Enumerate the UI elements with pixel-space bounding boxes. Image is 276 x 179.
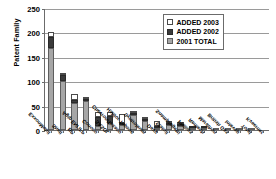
bar-segment-2001-total	[60, 81, 66, 130]
legend-entry[interactable]: 2001 TOTAL	[167, 37, 219, 47]
bar-slot	[257, 9, 269, 130]
legend-entry[interactable]: ADDED 2002	[167, 27, 219, 37]
black-square-icon	[167, 29, 173, 35]
x-label-slot: Marathon	[210, 131, 222, 179]
y-tick-label: 250	[27, 5, 40, 14]
x-label-slot: Rentech	[198, 131, 210, 179]
x-label-slot: Agip ENI IFP	[80, 131, 92, 179]
x-label-slot: Phillips	[186, 131, 198, 179]
bar-slot	[234, 9, 246, 130]
bar-slot	[45, 9, 57, 130]
x-label-slot: Syntroleum	[139, 131, 151, 179]
chart-legend: ADDED 2003ADDED 20022001 TOTAL	[163, 14, 224, 50]
x-axis-labels: ExxonMobilShellBPAgip ENI IFPConocoSASOL…	[44, 131, 269, 179]
bar-stack[interactable]	[48, 32, 54, 130]
legend-entry-label: ADDED 2002	[177, 28, 219, 35]
bar-segment-added-2002	[48, 37, 54, 48]
x-label-slot: Shell	[56, 131, 68, 179]
y-tick-label: 150	[27, 53, 40, 62]
x-label-slot: SASOL	[103, 131, 115, 179]
gray-square-icon	[167, 38, 173, 44]
x-label-slot: Chevron/Texaco	[115, 131, 127, 179]
legend-entry-label: ADDED 2003	[177, 19, 219, 26]
x-label-slot: Intevep	[234, 131, 246, 179]
x-label-slot: Kvaerner	[257, 131, 269, 179]
y-tick-label: 100	[27, 78, 40, 87]
y-tick-label: 50	[32, 102, 40, 111]
legend-entry[interactable]: ADDED 2003	[167, 18, 219, 28]
bar-slot	[246, 9, 258, 130]
x-label-slot: Haldor Topsoe	[127, 131, 139, 179]
bar-segment-2001-total	[48, 48, 54, 130]
x-label-slot: ExxonMobil	[44, 131, 56, 179]
x-label-slot: Davy	[151, 131, 163, 179]
legend-entry-label: 2001 TOTAL	[177, 38, 217, 45]
x-label-slot: Conoco	[91, 131, 103, 179]
y-axis-title: Patent Family	[12, 5, 21, 81]
y-tick-label: 200	[27, 29, 40, 38]
bar-slot	[69, 9, 81, 130]
patent-family-bar-chart: Patent Family 050100150200250 ExxonMobil…	[0, 0, 276, 179]
x-label-slot: Total	[245, 131, 257, 179]
x-label-slot: Statoil	[162, 131, 174, 179]
bar-slot	[128, 9, 140, 130]
white-square-icon	[167, 19, 173, 25]
x-label-slot: BP	[68, 131, 80, 179]
x-label-slot: British Gas	[222, 131, 234, 179]
bar-slot	[80, 9, 92, 130]
bar-stack[interactable]	[60, 73, 66, 130]
bar-slot	[139, 9, 151, 130]
x-label-slot: Snamprogetti	[174, 131, 186, 179]
